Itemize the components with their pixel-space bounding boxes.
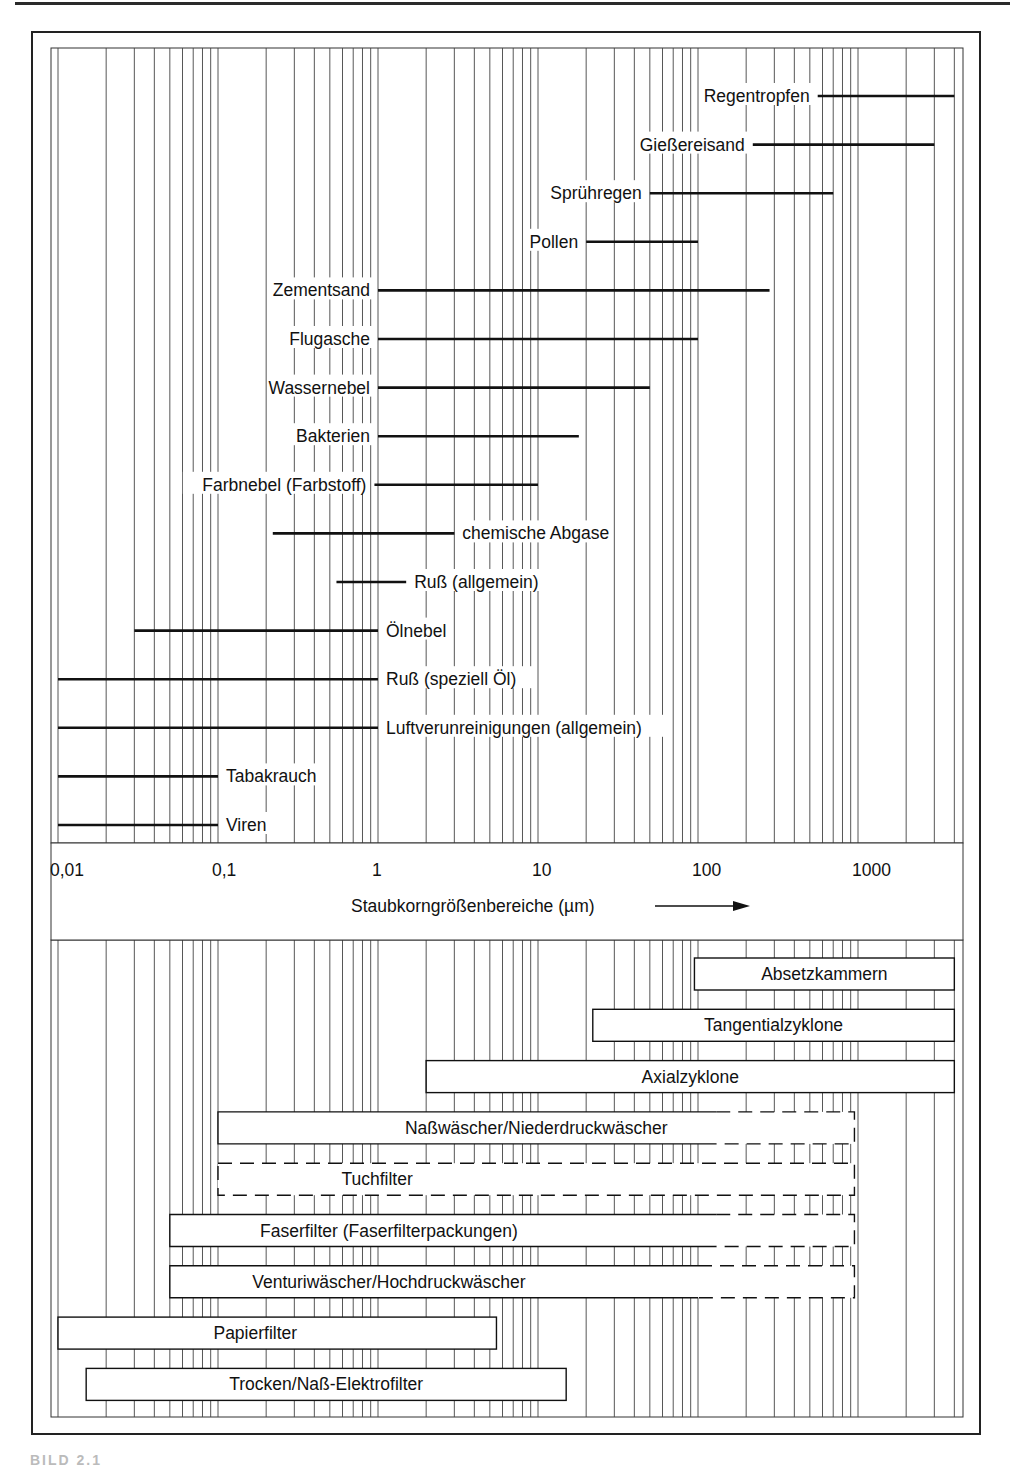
separator-label: Absetzkammern	[761, 964, 887, 984]
range-item: Viren	[58, 812, 272, 835]
range-item: Pollen	[524, 229, 698, 252]
range-label: Regentropfen	[704, 86, 810, 106]
range-item: Tabakrauch	[58, 763, 316, 786]
separator-label: Papierfilter	[213, 1323, 297, 1343]
separator-label: Axialzyklone	[642, 1067, 739, 1087]
separator-label: Venturiwäscher/Hochdruckwäscher	[252, 1272, 525, 1292]
range-label: Viren	[226, 815, 267, 835]
x-tick-label: 10	[532, 860, 552, 880]
range-item: Zementsand	[273, 277, 770, 300]
figure-caption: BILD 2.1	[30, 1452, 102, 1468]
x-axis-band: 0,010,11101001000 Staubkorngrößenbereich…	[50, 843, 963, 940]
range-label: Luftverunreinigungen (allgemein)	[386, 718, 642, 738]
range-label: Sprühregen	[550, 183, 641, 203]
range-item: Gießereisand	[639, 132, 935, 155]
range-item: Bakterien	[290, 423, 579, 446]
x-axis-label: Staubkorngrößenbereiche (µm)	[351, 896, 595, 916]
range-label: chemische Abgase	[462, 523, 609, 543]
x-tick-label: 0,1	[212, 860, 236, 880]
separator-label: Naßwäscher/Niederdruckwäscher	[405, 1118, 668, 1138]
x-tick-label: 0,01	[50, 860, 84, 880]
upper-range-lines: RegentropfenGießereisandSprühregenPollen…	[58, 83, 954, 835]
range-label: Zementsand	[273, 280, 370, 300]
range-item: Sprühregen	[550, 180, 833, 203]
separator-range-box: Papierfilter	[58, 1317, 496, 1349]
separator-label: Faserfilter (Faserfilterpackungen)	[260, 1221, 518, 1241]
range-item: Ölnebel	[134, 618, 449, 641]
separator-label: Trocken/Naß-Elektrofilter	[229, 1374, 423, 1394]
separator-label: Tangentialzyklone	[704, 1015, 843, 1035]
separator-range-box: Absetzkammern	[694, 958, 954, 990]
range-item: Ruß (allgemein)	[336, 569, 546, 592]
x-tick-label: 100	[692, 860, 721, 880]
range-label: Gießereisand	[640, 135, 745, 155]
separator-range-box: Trocken/Naß-Elektrofilter	[86, 1368, 566, 1400]
range-label: Wassernebel	[269, 378, 370, 398]
separator-range-box: Tangentialzyklone	[593, 1009, 955, 1041]
range-item: Farbnebel (Farbstoff)	[183, 472, 538, 495]
range-item: Regentropfen	[704, 83, 955, 106]
range-label: Farbnebel (Farbstoff)	[202, 475, 366, 495]
x-tick-label: 1000	[852, 860, 891, 880]
range-label: Ruß (allgemein)	[414, 572, 538, 592]
separator-range-box: Venturiwäscher/Hochdruckwäscher	[170, 1266, 855, 1298]
separator-range-box: Naßwäscher/Niederdruckwäscher	[218, 1112, 854, 1144]
range-item: Ruß (speziell Öl)	[58, 666, 535, 689]
range-item: Wassernebel	[269, 375, 650, 398]
range-item: Flugasche	[289, 326, 698, 349]
range-item: Luftverunreinigungen (allgemein)	[58, 715, 664, 738]
lower-range-boxes: AbsetzkammernTangentialzykloneAxialzyklo…	[58, 958, 954, 1400]
separator-range-box: Faserfilter (Faserfilterpackungen)	[170, 1215, 855, 1247]
range-label: Flugasche	[289, 329, 370, 349]
range-label: Tabakrauch	[226, 766, 316, 786]
range-item: chemische Abgase	[273, 520, 609, 543]
range-label: Pollen	[530, 232, 579, 252]
x-tick-label: 1	[372, 860, 382, 880]
separator-range-box: Tuchfilter	[218, 1163, 854, 1195]
range-label: Ruß (speziell Öl)	[386, 669, 516, 689]
separator-label: Tuchfilter	[341, 1169, 412, 1189]
range-label: Bakterien	[296, 426, 370, 446]
separator-range-box: Axialzyklone	[426, 1061, 954, 1093]
range-label: Ölnebel	[386, 621, 446, 641]
